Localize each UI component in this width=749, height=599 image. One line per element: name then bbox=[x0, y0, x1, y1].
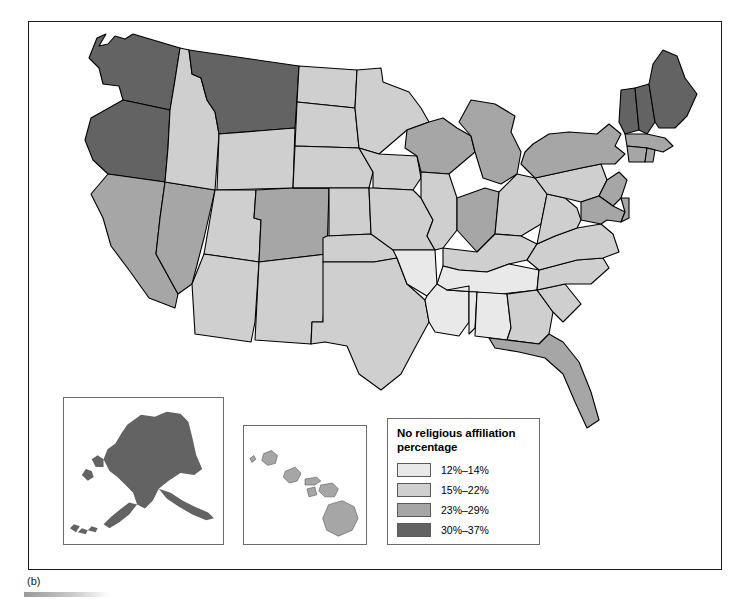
hawaii-inset bbox=[243, 425, 367, 545]
state-OR[interactable] bbox=[85, 100, 170, 182]
figure-frame: No religious affiliation percentage 12%–… bbox=[28, 21, 722, 570]
state-CT[interactable] bbox=[627, 146, 647, 162]
legend-title: No religious affiliation percentage bbox=[397, 426, 535, 454]
state-SD[interactable] bbox=[295, 102, 359, 148]
legend-swatch-0 bbox=[397, 463, 431, 477]
legend-row-2: 23%–29% bbox=[397, 501, 539, 519]
legend-row-1: 15%–22% bbox=[397, 481, 539, 499]
state-CO[interactable] bbox=[254, 188, 329, 262]
state-AK[interactable] bbox=[70, 412, 214, 534]
legend-title-line2: percentage bbox=[397, 441, 457, 453]
legend-swatch-1 bbox=[397, 483, 431, 497]
alaska-inset bbox=[63, 397, 224, 545]
legend-title-line1: No religious affiliation bbox=[397, 427, 515, 439]
legend-items: 12%–14% 15%–22% 23%–29% 30%–37% bbox=[397, 461, 539, 539]
state-WY[interactable] bbox=[217, 128, 295, 190]
hawaii-inset-svg bbox=[244, 426, 366, 544]
state-HI[interactable] bbox=[250, 451, 358, 537]
legend-swatch-2 bbox=[397, 503, 431, 517]
state-ME[interactable] bbox=[649, 50, 697, 128]
footer-rule bbox=[24, 592, 110, 597]
map-legend: No religious affiliation percentage 12%–… bbox=[387, 418, 540, 545]
panel-label: (b) bbox=[27, 575, 40, 587]
state-WA[interactable] bbox=[89, 34, 180, 110]
state-AZ[interactable] bbox=[192, 254, 259, 342]
state-LA[interactable] bbox=[425, 284, 469, 336]
legend-label-2: 23%–29% bbox=[441, 504, 489, 516]
legend-swatch-3 bbox=[397, 523, 431, 537]
state-ND[interactable] bbox=[297, 66, 357, 108]
state-AL[interactable] bbox=[475, 292, 511, 340]
state-RI[interactable] bbox=[645, 148, 655, 162]
legend-label-0: 12%–14% bbox=[441, 464, 489, 476]
legend-label-1: 15%–22% bbox=[441, 484, 489, 496]
state-NY[interactable] bbox=[521, 124, 625, 178]
legend-row-0: 12%–14% bbox=[397, 461, 539, 479]
legend-label-3: 30%–37% bbox=[441, 524, 489, 536]
legend-row-3: 30%–37% bbox=[397, 521, 539, 539]
alaska-inset-svg bbox=[64, 398, 223, 544]
state-FL[interactable] bbox=[489, 334, 599, 428]
